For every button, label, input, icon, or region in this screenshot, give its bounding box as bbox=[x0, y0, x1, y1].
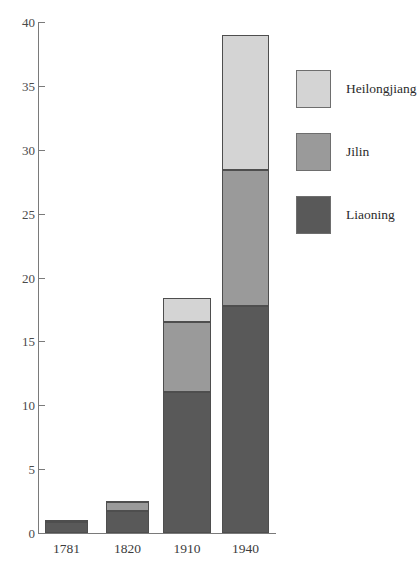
bar-segment-heilongjiang[interactable] bbox=[106, 501, 149, 503]
bar-group[interactable] bbox=[163, 22, 211, 533]
y-tick-label-text: 15 bbox=[22, 334, 35, 350]
y-tick-label-text: 10 bbox=[22, 398, 35, 414]
y-tick-label-text: 20 bbox=[22, 271, 35, 287]
bar-segment-jilin[interactable] bbox=[163, 322, 211, 392]
bar-segment-liaoning[interactable] bbox=[45, 522, 88, 533]
bar-segment-jilin[interactable] bbox=[106, 502, 149, 511]
bar-group[interactable] bbox=[45, 22, 88, 533]
y-tick-label-text: 0 bbox=[29, 526, 36, 542]
x-tick-label: 1940 bbox=[222, 541, 269, 557]
legend-swatch bbox=[296, 70, 331, 108]
legend-swatch bbox=[296, 196, 331, 234]
bar-segment-liaoning[interactable] bbox=[106, 511, 149, 533]
legend-swatch bbox=[296, 133, 331, 171]
bar-segment-jilin[interactable] bbox=[222, 170, 269, 305]
bar-segment-heilongjiang[interactable] bbox=[45, 520, 88, 522]
y-tick-label-text: 30 bbox=[22, 143, 35, 159]
bar-group[interactable] bbox=[106, 22, 149, 533]
legend-item[interactable]: Jilin bbox=[296, 133, 369, 171]
x-tick-label: 1781 bbox=[45, 541, 88, 557]
bar-segment-liaoning[interactable] bbox=[163, 392, 211, 533]
x-axis-line bbox=[38, 533, 276, 534]
legend-label: Liaoning bbox=[346, 207, 395, 223]
bar-group[interactable] bbox=[222, 22, 269, 533]
x-tick-label: 1820 bbox=[106, 541, 149, 557]
legend-label: Heilongjiang bbox=[346, 81, 417, 97]
y-tick-mark bbox=[39, 533, 45, 534]
bar-segment-liaoning[interactable] bbox=[222, 306, 269, 533]
legend-item[interactable]: Heilongjiang bbox=[296, 70, 417, 108]
legend-item[interactable]: Liaoning bbox=[296, 196, 395, 234]
bar-segment-heilongjiang[interactable] bbox=[163, 298, 211, 322]
x-tick-label: 1910 bbox=[163, 541, 211, 557]
chart-page: 0510152025303540 1781182019101940 Heilon… bbox=[0, 0, 417, 574]
y-tick-label-text: 5 bbox=[29, 462, 36, 478]
y-tick-label-text: 35 bbox=[22, 79, 35, 95]
bar-segment-heilongjiang[interactable] bbox=[222, 35, 269, 170]
y-tick-label-text: 40 bbox=[22, 15, 35, 31]
y-tick-label-text: 25 bbox=[22, 207, 35, 223]
legend-label: Jilin bbox=[346, 144, 369, 160]
